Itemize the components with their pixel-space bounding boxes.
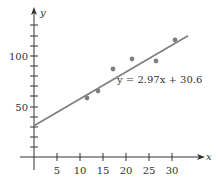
x-axis-label: x	[206, 151, 212, 162]
x-tick-label: 30	[166, 165, 179, 176]
equation-text: y = 2.97x + 30.6	[116, 74, 202, 85]
x-tick-label: 5	[54, 165, 60, 176]
x-tick-label: 10	[74, 165, 87, 176]
data-point	[130, 57, 135, 62]
data-point	[96, 89, 101, 94]
equation-label: y = 2.97x + 30.6	[116, 74, 202, 85]
y-axis-label: y	[39, 7, 46, 18]
x-tick-label: 20	[120, 165, 133, 176]
data-point	[173, 38, 178, 43]
y-tick-label: 100	[9, 51, 28, 62]
y-tick-label: 50	[15, 102, 28, 113]
data-point	[154, 59, 159, 64]
x-tick-label: 15	[97, 165, 110, 176]
data-point	[111, 67, 116, 72]
data-point	[85, 96, 90, 101]
x-tick-label: 25	[143, 165, 156, 176]
scatter-chart: 5 10 15 20 25 30 100 50 x y y = 2.97x + …	[0, 0, 218, 185]
